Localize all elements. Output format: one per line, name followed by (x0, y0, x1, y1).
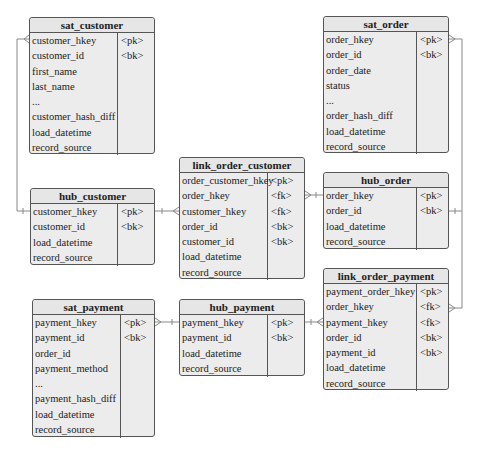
attribute-row: record_source (324, 234, 448, 249)
attribute-row: record_source (30, 140, 154, 155)
attribute-row: order_hkey<pk> (324, 188, 448, 203)
attribute-row: load_datetime (33, 407, 154, 422)
attribute-row: load_datetime (324, 219, 448, 234)
attribute-row: customer_id<bk> (30, 48, 154, 63)
attribute-row: customer_hash_diff (30, 109, 154, 124)
entity-hub-customer[interactable]: hub_customer customer_hkey<pk> customer_… (30, 188, 155, 265)
attribute-row: last_name (30, 79, 154, 94)
attribute-row: customer_hkey<pk> (30, 33, 154, 48)
attribute-row: load_datetime (324, 360, 448, 375)
attribute-row: order_date (324, 63, 448, 78)
entity-title: sat_order (324, 17, 448, 32)
attribute-row: load_datetime (324, 124, 448, 139)
attribute-row: payment_id<bk> (324, 345, 448, 360)
entity-title: hub_payment (180, 300, 304, 315)
attribute-row: ... (33, 376, 154, 391)
entity-link-order-payment[interactable]: link_order_payment payment_order_hkey<pk… (323, 268, 449, 390)
entity-title: link_order_payment (324, 269, 448, 284)
attribute-row: status (324, 78, 448, 93)
entity-link-order-customer[interactable]: link_order_customer order_customer_hkey<… (179, 157, 305, 279)
attribute-row: payment_hash_diff (33, 391, 154, 406)
entity-title: link_order_customer (180, 158, 304, 173)
entity-title: hub_customer (31, 189, 154, 204)
attribute-row: record_source (31, 250, 154, 265)
entity-hub-order[interactable]: hub_order order_hkey<pk> order_id<bk> lo… (323, 172, 449, 249)
attribute-row: record_source (324, 376, 448, 391)
entity-title: sat_payment (33, 300, 154, 315)
attribute-row: payment_hkey<pk> (33, 315, 154, 330)
attribute-row: payment_order_hkey<pk> (324, 284, 448, 299)
attribute-row: order_hkey<fk> (180, 188, 304, 203)
attribute-row: customer_id<bk> (31, 219, 154, 234)
attribute-row: record_source (180, 361, 304, 376)
attribute-row: record_source (180, 265, 304, 280)
attribute-row: order_id<bk> (324, 47, 448, 62)
attribute-row: payment_hkey<fk> (324, 315, 448, 330)
attribute-row: payment_hkey<pk> (180, 315, 304, 330)
attribute-row: load_datetime (31, 235, 154, 250)
entity-sat-payment[interactable]: sat_payment payment_hkey<pk> payment_id<… (32, 299, 155, 437)
attribute-row: order_id<bk> (324, 203, 448, 218)
attribute-row: load_datetime (180, 346, 304, 361)
attribute-row: customer_hkey<fk> (180, 204, 304, 219)
entity-title: hub_order (324, 173, 448, 188)
attribute-row: load_datetime (180, 249, 304, 264)
attribute-row: order_hash_diff (324, 108, 448, 123)
attribute-row: customer_id<bk> (180, 234, 304, 249)
attribute-row: order_hkey<fk> (324, 299, 448, 314)
attribute-row: order_id (33, 346, 154, 361)
attribute-row: order_id<bk> (324, 330, 448, 345)
entity-sat-customer[interactable]: sat_customer customer_hkey<pk> customer_… (29, 17, 155, 154)
attribute-row: record_source (324, 139, 448, 154)
entity-title: sat_customer (30, 18, 154, 33)
attribute-row: first_name (30, 64, 154, 79)
attribute-row: payment_method (33, 361, 154, 376)
attribute-row: order_hkey<pk> (324, 32, 448, 47)
attribute-row: customer_hkey<pk> (31, 204, 154, 219)
attribute-row: ... (324, 93, 448, 108)
attribute-row: payment_id<bk> (33, 330, 154, 345)
attribute-row: order_id<bk> (180, 219, 304, 234)
attribute-row: payment_id<bk> (180, 330, 304, 345)
entity-sat-order[interactable]: sat_order order_hkey<pk> order_id<bk> or… (323, 16, 449, 153)
attribute-row: load_datetime (30, 125, 154, 140)
attribute-row: order_customer_hkey<pk> (180, 173, 304, 188)
attribute-row: ... (30, 94, 154, 109)
attribute-row: record_source (33, 422, 154, 437)
entity-hub-payment[interactable]: hub_payment payment_hkey<pk> payment_id<… (179, 299, 305, 376)
